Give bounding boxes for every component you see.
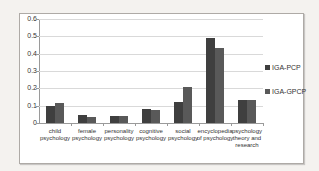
bar-iga-pcp xyxy=(110,116,119,123)
gridline xyxy=(39,88,263,89)
legend-marker-icon xyxy=(265,65,270,70)
bar-iga-gpcp xyxy=(87,117,96,123)
bar-iga-gpcp xyxy=(215,48,224,123)
legend-entry: IGA-GPCP xyxy=(265,88,306,95)
y-tick-label: 0.6 xyxy=(20,15,37,23)
bar-iga-pcp xyxy=(78,115,87,123)
y-tick-mark xyxy=(36,123,39,124)
bar-iga-pcp xyxy=(238,100,247,123)
x-tick-mark xyxy=(263,123,264,126)
y-tick-label: 0.5 xyxy=(20,32,37,40)
bar-iga-gpcp xyxy=(183,87,192,123)
legend-entry: IGA-PCP xyxy=(265,64,306,71)
legend-label: IGA-GPCP xyxy=(272,88,306,95)
x-tick-label: psychology theory and research xyxy=(227,128,267,149)
x-tick-mark xyxy=(167,123,168,126)
bar-iga-gpcp xyxy=(119,116,128,123)
chart-frame: 00.10.20.30.40.50.6 child psychologyfema… xyxy=(19,13,304,164)
legend-label: IGA-PCP xyxy=(272,64,301,71)
gridline xyxy=(39,19,263,20)
legend: IGA-PCPIGA-GPCP xyxy=(265,64,306,112)
x-tick-mark xyxy=(135,123,136,126)
y-tick-label: 0.2 xyxy=(20,84,37,92)
gridline xyxy=(39,54,263,55)
y-tick-mark xyxy=(36,54,39,55)
y-tick-mark xyxy=(36,71,39,72)
bar-iga-gpcp xyxy=(55,103,64,123)
y-tick-label: 0.1 xyxy=(20,102,37,110)
bar-iga-pcp xyxy=(174,102,183,123)
y-tick-label: 0.3 xyxy=(20,67,37,75)
x-tick-mark xyxy=(103,123,104,126)
y-tick-label: 0 xyxy=(20,119,37,127)
bar-iga-pcp xyxy=(142,109,151,123)
y-tick-mark xyxy=(36,19,39,20)
bar-iga-gpcp xyxy=(247,100,256,123)
legend-marker-icon xyxy=(265,89,270,94)
plot-area xyxy=(39,19,263,123)
bar-iga-pcp xyxy=(46,106,55,123)
x-tick-mark xyxy=(231,123,232,126)
y-tick-mark xyxy=(36,36,39,37)
bar-iga-gpcp xyxy=(151,110,160,123)
x-tick-mark xyxy=(71,123,72,126)
bar-iga-pcp xyxy=(206,38,215,123)
gridline xyxy=(39,106,263,107)
gridline xyxy=(39,71,263,72)
gridline xyxy=(39,123,263,124)
gridline xyxy=(39,36,263,37)
y-tick-mark xyxy=(36,88,39,89)
y-tick-mark xyxy=(36,106,39,107)
x-tick-mark xyxy=(199,123,200,126)
y-tick-label: 0.4 xyxy=(20,50,37,58)
